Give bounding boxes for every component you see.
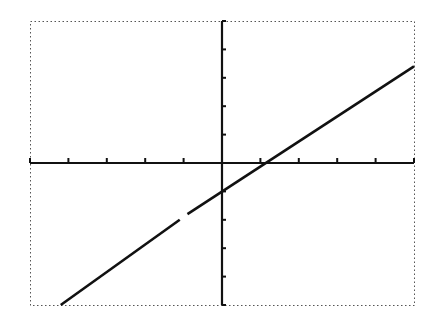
line-segment [61, 220, 180, 305]
graph-screen [0, 0, 438, 324]
plotted-line [61, 66, 414, 305]
